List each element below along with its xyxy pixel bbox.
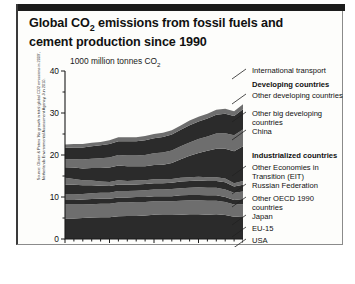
legend-item-other-developing-countries: Other developing countries (252, 92, 346, 101)
leader-line (232, 94, 246, 104)
y-tick-label-30: 30 (43, 108, 59, 118)
y-tick-label-40: 40 (43, 66, 59, 76)
leader-line (232, 112, 246, 122)
stacked-area-svg (49, 67, 243, 247)
y-axis-units-label: 1000 million tonnes CO2 (70, 56, 161, 68)
plot-area: 010203040 19901995200020052010 (49, 67, 243, 247)
header-bar (18, 4, 345, 11)
leader-line (232, 197, 246, 207)
leader-line (232, 215, 246, 225)
leader-line (232, 69, 246, 79)
chart-figure: Global CO2 emissions from fossil fuels a… (16, 4, 343, 245)
leader-line (232, 184, 246, 194)
leader-line (232, 166, 246, 176)
units-text: 1000 million tonnes CO (70, 56, 157, 66)
legend-item-international-transport: International transport (252, 67, 346, 76)
area-band-usa (65, 214, 243, 239)
leader-line (232, 227, 246, 237)
page-title: Global CO2 emissions from fossil fuels a… (29, 16, 289, 50)
legend-item-japan: Japan (252, 213, 346, 222)
legend-item-eu-15: EU-15 (252, 225, 346, 234)
legend-item-usa: USA (252, 237, 346, 246)
y-tick-label-0: 0 (43, 234, 59, 244)
legend-item-other-big-developing-countries: Other big developing countries (252, 110, 346, 127)
legend-item-developing-countries: Developing countries (252, 81, 346, 90)
legend-item-russian-federation: Russian Federation (252, 182, 346, 191)
y-tick-label-10: 10 (43, 192, 59, 202)
y-tick-label-20: 20 (43, 150, 59, 160)
legend-item-other-economies-in-transition-eit: Other Economies in Transition (EIT) (252, 164, 346, 181)
leader-line (232, 130, 246, 140)
legend-item-other-oecd-1990-countries: Other OECD 1990 countries (252, 195, 346, 212)
legend-leader-lines (226, 67, 252, 247)
legend-item-china: China (252, 128, 346, 137)
title-text-part1: Global CO (29, 16, 90, 30)
leader-line (232, 239, 246, 247)
legend-item-industrialized-countries: Industrialized countries (252, 152, 346, 161)
